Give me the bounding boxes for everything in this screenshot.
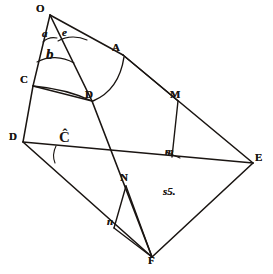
point-label-D-upper: D (85, 89, 93, 100)
point-label-m: m (165, 146, 174, 157)
point-label-C: C (20, 74, 28, 85)
point-label-A: A (112, 42, 120, 53)
angle-label-b: b (46, 47, 53, 62)
angle-arc-b (37, 58, 74, 63)
point-label-N: N (120, 172, 128, 183)
point-label-M: M (170, 89, 181, 100)
geometry-figure: O A C D M D m E N n F a e b Ĉ s5. (0, 0, 273, 274)
segment-C-D (23, 86, 33, 142)
angle-label-a: a (42, 28, 48, 39)
angle-label-C-hat: Ĉ (59, 130, 70, 145)
figure-number-caption: s5. (163, 186, 176, 197)
point-label-O: O (36, 3, 45, 14)
arc-A-to-D (93, 57, 124, 101)
segment-D-E (23, 142, 253, 163)
point-label-D: D (9, 131, 17, 142)
angle-arc-C-hat (54, 146, 56, 163)
point-label-n: n (107, 216, 113, 227)
segment-D-F (23, 142, 152, 257)
angle-label-e: e (62, 27, 67, 38)
point-label-F: F (148, 255, 155, 266)
segment-C-D2 (33, 86, 92, 101)
segment-N-n (114, 186, 126, 228)
segment-F-E (152, 163, 253, 257)
point-label-E: E (255, 152, 263, 163)
figure-drawing-canvas (0, 0, 273, 274)
